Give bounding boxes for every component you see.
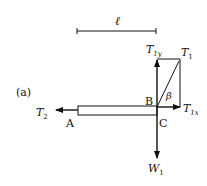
panel-label: (a) <box>16 86 31 99</box>
t2-label: T2 <box>36 106 48 121</box>
length-label: ℓ <box>115 14 120 28</box>
angle-beta-label: β <box>165 90 172 101</box>
point-b-label: B <box>145 95 153 108</box>
t1y-label: T1y <box>146 43 163 58</box>
t1-label: T1 <box>181 46 193 61</box>
t1x-label: T1x <box>183 102 199 117</box>
force-diagram: ℓ (a) T1y T1 T1x T2 W1 β B C A <box>0 0 207 186</box>
length-dimension <box>77 28 156 34</box>
w1-label: W1 <box>148 162 164 177</box>
point-c-label: C <box>159 117 167 130</box>
point-a-label: A <box>65 117 75 130</box>
